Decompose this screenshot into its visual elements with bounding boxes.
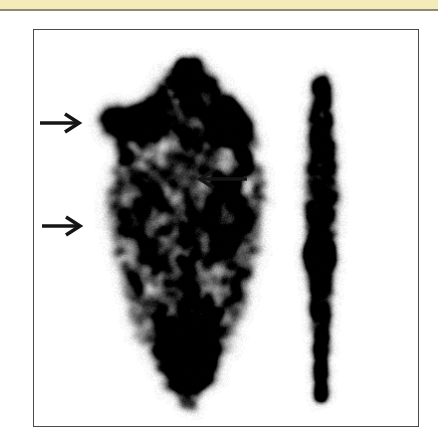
scintigraphy-scan-image [34,30,418,426]
figure-page: anterior planar scintigram of thorax sho… [0,0,438,439]
page-header-rule [0,9,438,11]
scintigraphy-figure-frame [33,29,419,427]
page-header-strip [0,0,438,9]
